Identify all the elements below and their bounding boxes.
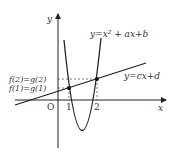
- y-axis-label: y: [46, 14, 53, 24]
- x-axis-label: x: [158, 103, 163, 113]
- intersection-point-1: [67, 86, 71, 90]
- x-tick-1: 1: [66, 102, 72, 112]
- parabola-label: y=x² + ax+b: [89, 29, 149, 39]
- lower-equality-label: f(1)=g(1): [8, 84, 46, 93]
- intersection-point-2: [95, 77, 99, 81]
- upper-equality-label: f(2)=g(2): [8, 75, 46, 84]
- origin-label: O: [47, 102, 54, 112]
- line-label: y=cx+d: [123, 71, 160, 81]
- x-tick-2: 2: [94, 102, 100, 112]
- graph-diagram: y x O 1 2 y=x² + ax+b y=cx+d f(2)=g(2) f…: [0, 0, 174, 157]
- parabola-curve: [64, 38, 101, 131]
